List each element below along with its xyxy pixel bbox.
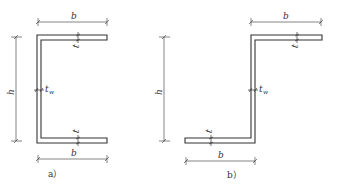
label-a-top-b: b: [71, 11, 77, 21]
label-a-bottom-t: t: [71, 128, 82, 134]
caption-b: b）: [227, 170, 242, 180]
z-section-outline: [185, 35, 322, 143]
web-thickness-marker: [34, 88, 44, 92]
label-a-h: h: [6, 89, 16, 95]
bottom-flange-thickness-marker: [76, 135, 80, 146]
height-dimension: [159, 35, 170, 143]
label-b-h: h: [154, 89, 164, 95]
section-diagrams: b b h t w t t a）: [0, 0, 338, 192]
figure-b-z-section: [159, 18, 323, 165]
figure-a-channel-section: [11, 18, 109, 163]
web-thickness-marker: [248, 88, 258, 92]
height-dimension: [11, 35, 22, 143]
label-a-bottom-b: b: [71, 148, 77, 158]
label-b-bottom-b: b: [218, 150, 224, 160]
bottom-flange-thickness-marker: [209, 135, 213, 146]
label-b-bottom-t: t: [204, 128, 215, 134]
caption-a: a）: [48, 169, 62, 179]
label-b-tw-sub: w: [263, 88, 269, 95]
label-a-top-t: t: [71, 43, 82, 49]
top-flange-thickness-marker: [76, 32, 80, 43]
label-b-top-t: t: [290, 43, 301, 49]
top-flange-thickness-marker: [295, 32, 299, 43]
label-b-top-b: b: [283, 11, 289, 21]
label-a-tw-sub: w: [49, 88, 55, 95]
